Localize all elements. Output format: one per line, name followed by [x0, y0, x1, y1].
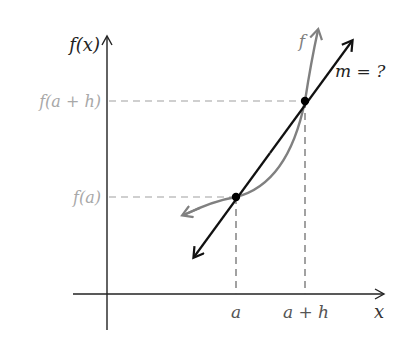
secant-diagram: f(x) f(a + h) f(a) a a + h x f m = ?	[0, 0, 410, 344]
y-label-fah: f(a + h)	[38, 92, 101, 111]
secant-line	[270, 41, 352, 153]
curve-f	[184, 30, 318, 215]
x-label-ah: a + h	[283, 302, 329, 322]
point-fa	[232, 193, 240, 201]
y-axis-label: f(x)	[67, 34, 100, 55]
x-axis-label: x	[374, 301, 384, 322]
x-label-a: a	[231, 302, 241, 322]
curve-label-f: f	[297, 31, 308, 51]
curve-f-left-arrow	[183, 208, 200, 215]
point-fah	[301, 97, 309, 105]
y-label-fa: f(a)	[72, 188, 101, 207]
dashed-guides	[109, 101, 305, 197]
slope-label: m = ?	[335, 61, 386, 81]
dashed-verticals	[236, 101, 305, 294]
